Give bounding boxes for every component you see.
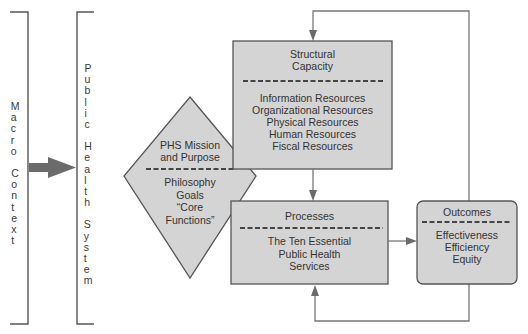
- outcomes-title: Outcomes: [417, 206, 517, 218]
- resource-item: Fiscal Resources: [233, 140, 392, 152]
- mission-title: PHS Mission and Purpose: [140, 139, 240, 163]
- context-word: Context: [11, 168, 19, 246]
- mission-body-line: Functions”: [140, 214, 240, 227]
- resource-item: Human Resources: [233, 128, 392, 140]
- letter: c: [11, 123, 20, 134]
- processes-title: Processes: [231, 210, 388, 222]
- macro-to-system-arrow-icon: [29, 157, 76, 178]
- resource-item: Organizational Resources: [233, 104, 392, 116]
- letter: c: [84, 119, 91, 130]
- mission-title-line: PHS Mission: [140, 139, 240, 151]
- arrow-down-icon-2: [309, 190, 317, 201]
- mission-body-line: Philosophy: [140, 176, 240, 189]
- processes-title-line: Processes: [231, 210, 388, 222]
- mission-body-line: Goals: [140, 189, 240, 202]
- macro-word: Macro: [11, 101, 20, 157]
- letter: o: [11, 146, 20, 157]
- public-word: Public: [84, 63, 91, 130]
- system-word: System: [84, 219, 93, 286]
- arrow-right-icon: [406, 237, 417, 245]
- processes-body-line: Public Health: [231, 248, 388, 261]
- processes-body: The Ten Essential Public Health Services: [231, 235, 388, 273]
- letter: m: [84, 275, 93, 286]
- letter: n: [11, 190, 19, 201]
- mission-title-line: and Purpose: [140, 151, 240, 163]
- arrow-up-icon: [311, 285, 319, 296]
- letter: e: [84, 152, 92, 163]
- structural-capacity-body: Information Resources Organizational Res…: [233, 92, 392, 152]
- letter: b: [84, 85, 91, 96]
- letter: t: [11, 235, 19, 246]
- structural-title-line: Capacity: [233, 60, 392, 72]
- processes-body-line: The Ten Essential: [231, 235, 388, 248]
- arrow-down-icon: [309, 30, 317, 41]
- resource-item: Information Resources: [233, 92, 392, 104]
- outcomes-title-line: Outcomes: [417, 206, 517, 218]
- structural-title-line: Structural: [233, 48, 392, 60]
- letter: S: [84, 219, 93, 230]
- macro-context-label: Macro Context: [8, 101, 22, 246]
- public-health-system-label: Public Health System: [81, 63, 95, 287]
- mission-body-line: “Core: [140, 201, 240, 214]
- outcomes-body-line: Efficiency: [417, 241, 517, 253]
- feedback-line-bottom: [315, 284, 469, 321]
- outcomes-body: Effectiveness Efficiency Equity: [417, 229, 517, 265]
- mission-body: Philosophy Goals “Core Functions”: [140, 176, 240, 226]
- outcomes-body-line: Equity: [417, 253, 517, 265]
- health-word: Health: [84, 141, 92, 208]
- outcomes-body-line: Effectiveness: [417, 229, 517, 241]
- processes-body-line: Services: [231, 260, 388, 273]
- structural-capacity-title: Structural Capacity: [233, 48, 392, 72]
- resource-item: Physical Resources: [233, 116, 392, 128]
- letter: h: [84, 197, 92, 208]
